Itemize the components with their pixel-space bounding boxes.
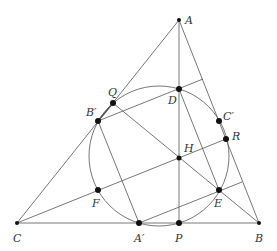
label-a: A: [184, 14, 193, 27]
label-b: B: [254, 232, 263, 245]
point-p: [176, 220, 182, 226]
label-d: D: [167, 94, 177, 107]
point-f: [95, 187, 101, 193]
point-q: [110, 100, 116, 106]
point-d: [176, 86, 182, 92]
label-p: P: [174, 232, 183, 245]
label-c-prime: C′: [223, 110, 234, 123]
labels: A B C A′ B′ C′ D E F H P Q R: [13, 14, 263, 245]
label-b-prime: B′: [85, 106, 97, 119]
label-f: F: [91, 197, 100, 210]
line-qb: [113, 103, 259, 223]
line-ap-e: [139, 182, 242, 223]
line-bp-ap: [98, 121, 139, 223]
label-e: E: [213, 197, 222, 210]
label-r: R: [231, 130, 240, 143]
geometry-diagram: A B C A′ B′ C′ D E F H P Q R: [0, 0, 277, 251]
label-a-prime: A′: [133, 232, 145, 245]
point-e: [216, 187, 222, 193]
point-c-prime: [216, 118, 222, 124]
point-c: [15, 221, 19, 225]
line-d-e: [179, 89, 219, 190]
point-h: [177, 156, 182, 161]
line-cr: [17, 139, 226, 223]
point-b: [257, 221, 261, 225]
point-r: [223, 136, 229, 142]
label-h: H: [183, 142, 194, 155]
point-a-prime: [136, 220, 142, 226]
label-q: Q: [108, 86, 117, 99]
point-a: [177, 18, 181, 22]
label-c: C: [13, 232, 22, 245]
